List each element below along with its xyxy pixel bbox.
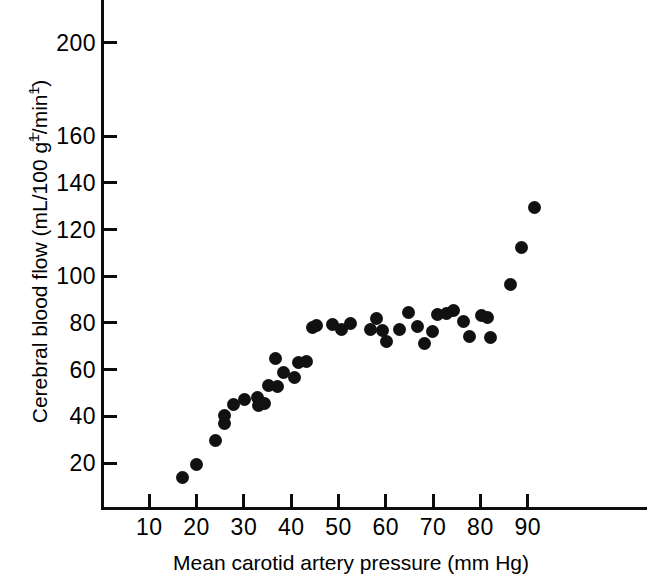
data-point bbox=[218, 409, 231, 422]
y-axis-title-text-b: /min bbox=[28, 95, 51, 135]
x-axis-title: Mean carotid artery pressure (mm Hg) bbox=[101, 551, 601, 575]
data-point bbox=[457, 315, 470, 328]
data-point bbox=[288, 371, 301, 384]
data-point bbox=[426, 325, 439, 338]
data-point bbox=[515, 241, 528, 254]
scatter-chart-figure: 20406080100120140160200 1020304050607080… bbox=[0, 0, 648, 582]
data-point bbox=[258, 397, 271, 410]
data-point bbox=[269, 352, 282, 365]
data-point bbox=[402, 306, 415, 319]
data-point bbox=[310, 319, 323, 332]
plot-area bbox=[0, 0, 648, 582]
data-point bbox=[463, 330, 476, 343]
data-point bbox=[209, 434, 222, 447]
data-point bbox=[364, 323, 377, 336]
data-point bbox=[344, 317, 357, 330]
data-point bbox=[504, 278, 517, 291]
data-point bbox=[411, 320, 424, 333]
data-point bbox=[300, 355, 313, 368]
data-point bbox=[176, 471, 189, 484]
data-point bbox=[380, 335, 393, 348]
data-point bbox=[238, 393, 251, 406]
data-point bbox=[393, 323, 406, 336]
data-point bbox=[190, 458, 203, 471]
data-point bbox=[271, 380, 284, 393]
data-point bbox=[484, 331, 497, 344]
y-axis-title: Cerebral blood flow (mL/100 g1/min1) bbox=[27, 17, 52, 487]
data-point bbox=[481, 311, 494, 324]
data-point bbox=[370, 312, 383, 325]
data-point bbox=[528, 201, 541, 214]
y-axis-title-text-a: Cerebral blood flow (mL/100 g bbox=[28, 142, 51, 423]
data-point bbox=[418, 337, 431, 350]
data-point bbox=[447, 304, 460, 317]
